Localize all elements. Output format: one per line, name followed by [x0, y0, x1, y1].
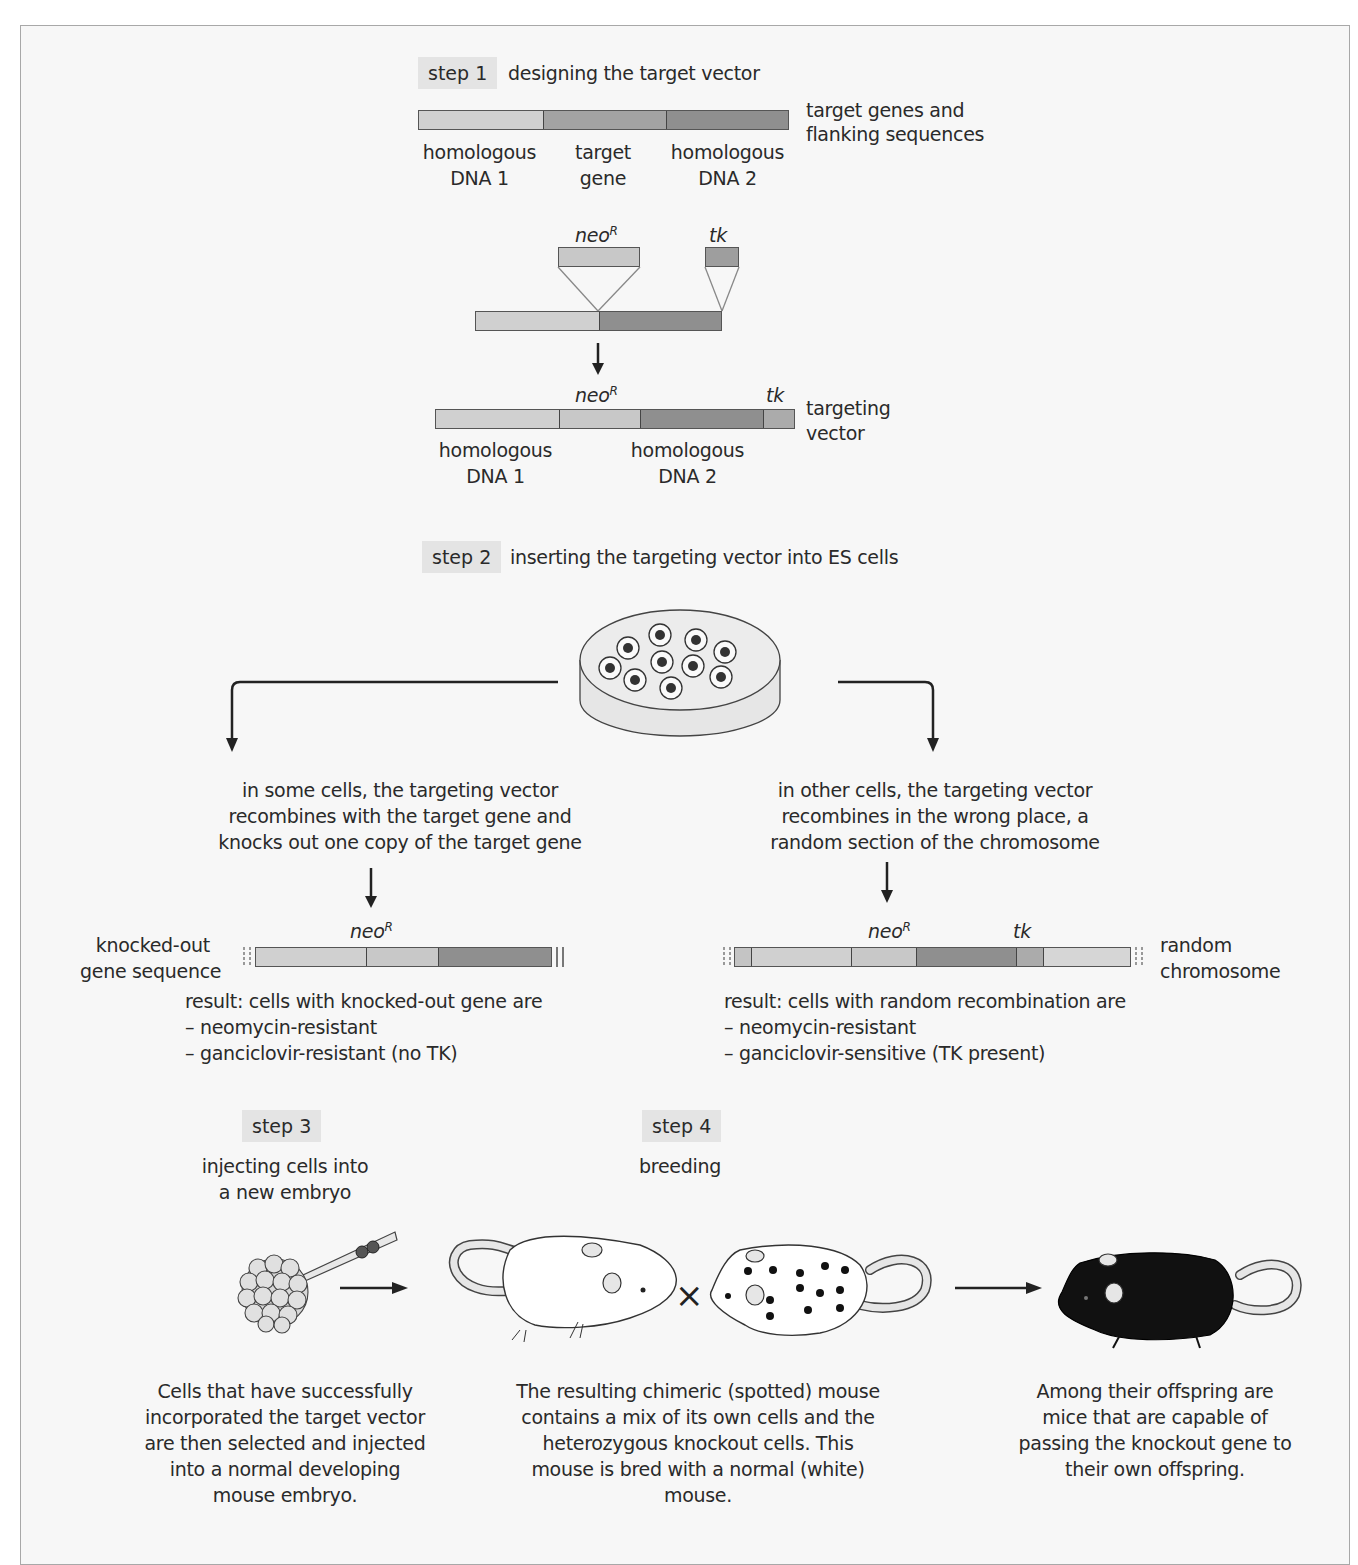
offspring-caption-line3: passing the knockout gene to	[1000, 1430, 1310, 1456]
offspring-caption: Among their offspring are mice that are …	[1000, 1378, 1310, 1482]
chimeric-caption-line1: The resulting chimeric (spotted) mouse	[488, 1378, 908, 1404]
chimeric-caption-line5: mouse.	[488, 1482, 908, 1508]
step3-caption-line4: into a normal developing	[130, 1456, 440, 1482]
chimeric-caption-line2: contains a mix of its own cells and the	[488, 1404, 908, 1430]
offspring-caption-line1: Among their offspring are	[1000, 1378, 1310, 1404]
offspring-caption-line4: their own offspring.	[1000, 1456, 1310, 1482]
step3-caption-line3: are then selected and injected	[130, 1430, 440, 1456]
chimeric-caption-line3: heterozygous knockout cells. This	[488, 1430, 908, 1456]
chimeric-caption-line4: mouse is bred with a normal (white)	[488, 1456, 908, 1482]
step3-caption-line5: mouse embryo.	[130, 1482, 440, 1508]
step3-caption-line2: incorporated the target vector	[130, 1404, 440, 1430]
step3-caption: Cells that have successfully incorporate…	[130, 1378, 440, 1508]
step3-caption-line1: Cells that have successfully	[130, 1378, 440, 1404]
offspring-caption-line2: mice that are capable of	[1000, 1404, 1310, 1430]
chimeric-caption: The resulting chimeric (spotted) mouse c…	[488, 1378, 908, 1508]
